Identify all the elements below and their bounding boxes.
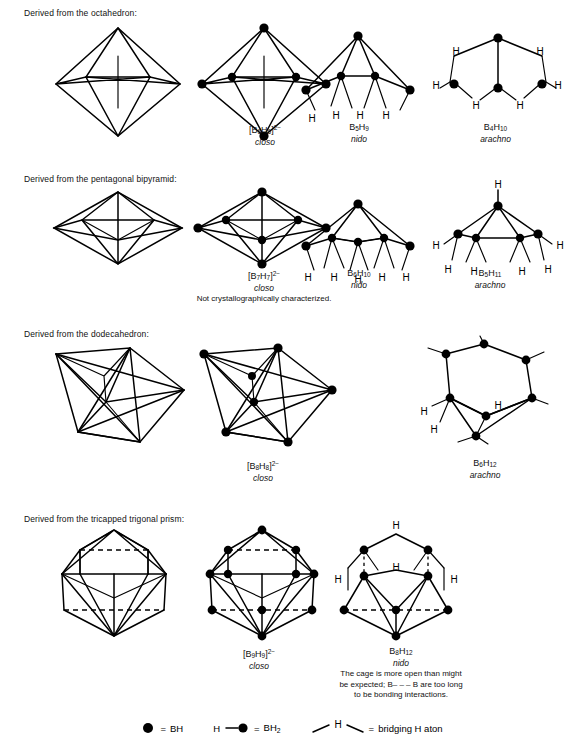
legend-item-bh2: H = BH2 (213, 721, 280, 735)
hydrogen-label: H (452, 46, 459, 57)
filled-circle-icon (140, 721, 156, 735)
note-b8h12-line2: be expected; B– – – B are too long (272, 680, 530, 691)
type-b8h8: closo (188, 473, 338, 484)
hydrogen-label: H (472, 100, 479, 111)
hydrogen-label: H (450, 574, 457, 585)
structure-pentagonal-bipyramid-parent (46, 188, 191, 268)
type-b6h10: nido (294, 280, 424, 291)
bridge-icon: H (311, 719, 365, 737)
type-b5h9: nido (294, 134, 424, 145)
caption-b6h10: B6H10 nido (294, 268, 424, 291)
section-heading-octahedron: Derived from the octahedron: (24, 8, 137, 18)
type-b4h10: arachno (428, 134, 563, 145)
formula-b5h9: B5H9 (294, 122, 424, 134)
legend-prefix-h: H (213, 723, 220, 734)
legend-label-bh: BH (170, 723, 183, 734)
type-b6h12: arachno (410, 470, 560, 481)
h-dash-circle-icon (224, 721, 250, 735)
legend-equals-bh2: = (254, 723, 260, 734)
legend-item-bh: = BH (140, 721, 183, 735)
section-heading-dodecahedron: Derived from the dodecahedron: (24, 329, 149, 339)
structure-dodecahedron-parent (44, 344, 194, 454)
structure-tricapped-trigonal-prism-parent (40, 526, 190, 642)
legend: = BH H = BH2 H = bridging H aton (0, 719, 583, 737)
hydrogen-label: H (332, 110, 339, 121)
formula-b6h10: B6H10 (294, 268, 424, 280)
hydrogen-label: H (430, 424, 437, 435)
formula-b8h8: [B8H8]2− (188, 458, 338, 473)
structure-b8h12: H H H H (322, 518, 472, 642)
note-b8h12-line3: to be bonding interactions. (272, 690, 530, 701)
hydrogen-label: H (432, 80, 439, 91)
hydrogen-label: H (392, 520, 399, 531)
type-b5h11: arachno (420, 280, 560, 291)
note-b8h12-line1: The cage is more open than might (272, 669, 530, 680)
caption-b5h9: B5H9 nido (294, 122, 424, 145)
hydrogen-label: H (334, 574, 341, 585)
formula-b6h12: B6H12 (410, 458, 560, 470)
structure-b4h10: H H H H H H (432, 30, 562, 126)
hydrogen-label: H (420, 406, 427, 417)
legend-equals-bh: = (160, 723, 166, 734)
caption-b8h12: B8H12 nido The cage is more open than mi… (272, 646, 530, 701)
caption-b6h12: B6H12 arachno (410, 458, 560, 481)
caption-b8h8: [B8H8]2− closo (188, 458, 338, 484)
structure-b9h9 (188, 526, 338, 642)
formula-b8h12: B8H12 (272, 646, 530, 658)
legend-item-bridging-h: H = bridging H aton (311, 719, 443, 737)
formula-b4h10: B4H10 (428, 122, 563, 134)
legend-equals-bridging: = (369, 723, 375, 734)
structure-octahedron-parent (46, 22, 191, 142)
hydrogen-label: H (556, 240, 563, 251)
type-b8h12: nido (272, 658, 530, 669)
formula-b5h11: B5H11 (420, 268, 560, 280)
section-heading-tricapped-trigonal-prism: Derived from the tricapped trigonal pris… (24, 514, 184, 524)
hydrogen-label: H (494, 179, 501, 190)
hydrogen-label: H (432, 240, 439, 251)
hydrogen-label: H (382, 110, 389, 121)
hydrogen-label: H (494, 400, 501, 411)
legend-label-bh2: BH2 (264, 722, 281, 734)
structure-b5h9: H H H H (294, 28, 424, 128)
hydrogen-label: H (356, 110, 363, 121)
hydrogen-label: H (516, 100, 523, 111)
hydrogen-label: H (554, 80, 561, 91)
section-heading-pentagonal-bipyramid: Derived from the pentagonal bipyramid: (24, 174, 177, 184)
hydrogen-label: H (536, 46, 543, 57)
structure-b8h8 (192, 344, 342, 454)
caption-b5h11: B5H11 arachno (420, 268, 560, 291)
legend-label-bridging: bridging H aton (378, 723, 442, 734)
diagram-page: Derived from the octahedron: [B6H6]2− (0, 0, 583, 755)
note-b7h7: Not crystallographically characterized. (178, 294, 350, 305)
caption-b4h10: B4H10 arachno (428, 122, 563, 145)
hydrogen-label: H (392, 562, 399, 573)
structure-b6h12: H H H (410, 336, 560, 452)
bridge-hydrogen-label: H (334, 719, 341, 730)
